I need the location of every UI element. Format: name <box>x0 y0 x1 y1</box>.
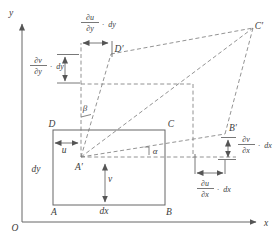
point-D-prime-label: D′ <box>114 44 125 54</box>
side-dy-label: dy <box>32 164 42 174</box>
y-axis-label: y <box>8 8 14 18</box>
edge-Bp-Cp <box>225 28 253 134</box>
axes: y x O <box>8 8 269 233</box>
du-dx-factor: dx <box>223 185 231 194</box>
side-dx-label: dx <box>100 206 110 216</box>
diagram-canvas: y x O A B C D dx dy u v A′ B′ C′ D′ <box>0 0 280 245</box>
v-label: v <box>108 174 113 184</box>
point-A-label: A <box>50 207 57 217</box>
point-D-label: D <box>48 119 56 129</box>
du-dx-dot: · <box>217 185 219 194</box>
dv-dx-denominator: ∂x <box>242 146 250 155</box>
dv-dy-factor: dy <box>56 62 64 71</box>
dv-dx-factor: dx <box>264 141 272 150</box>
dv-dx-dot: · <box>258 141 260 150</box>
beta-label: β <box>82 103 88 113</box>
du-dy-dot: · <box>102 20 104 29</box>
alpha-label: α <box>153 146 158 156</box>
du-dx-denominator: ∂x <box>201 190 209 199</box>
dv-dy-denominator: ∂y <box>34 67 42 76</box>
x-axis-label: x <box>263 218 269 228</box>
du-dy-measure: ∂u ∂y · dy <box>81 13 116 57</box>
du-dy-factor: dy <box>108 20 116 29</box>
du-dy-denominator: ∂y <box>86 24 94 33</box>
du-dx-numerator: ∂u <box>201 179 209 188</box>
alpha-angle-tick <box>145 147 150 155</box>
deformed-element: A′ B′ C′ D′ <box>74 21 264 172</box>
du-dx-measure: ∂u ∂x · dx <box>195 154 231 199</box>
original-element: A B C D dx dy <box>32 119 175 217</box>
dv-dx-numerator: ∂v <box>242 135 250 144</box>
point-B-prime-label: B′ <box>229 123 238 133</box>
dv-dx-measure: ∂v ∂x · dx <box>218 135 272 160</box>
edge-Dp-Cp <box>111 28 253 54</box>
point-B-label: B <box>166 207 172 217</box>
dv-dy-dot: · <box>50 62 52 71</box>
point-C-prime-label: C′ <box>255 21 264 31</box>
point-A-prime-label: A′ <box>74 162 84 172</box>
displacement-measures: u v <box>55 143 113 202</box>
deformation-diagram: y x O A B C D dx dy u v A′ B′ C′ D′ <box>0 0 280 245</box>
element-rectangle <box>53 130 165 205</box>
dv-dy-numerator: ∂v <box>34 56 42 65</box>
point-C-label: C <box>168 119 175 129</box>
du-dy-numerator: ∂u <box>86 13 94 22</box>
beta-angle-tick <box>81 115 91 118</box>
translated-outline <box>81 43 236 158</box>
origin-label: O <box>12 223 19 233</box>
u-label: u <box>62 145 67 155</box>
dv-dy-measure: ∂v ∂y · dy <box>30 55 80 84</box>
